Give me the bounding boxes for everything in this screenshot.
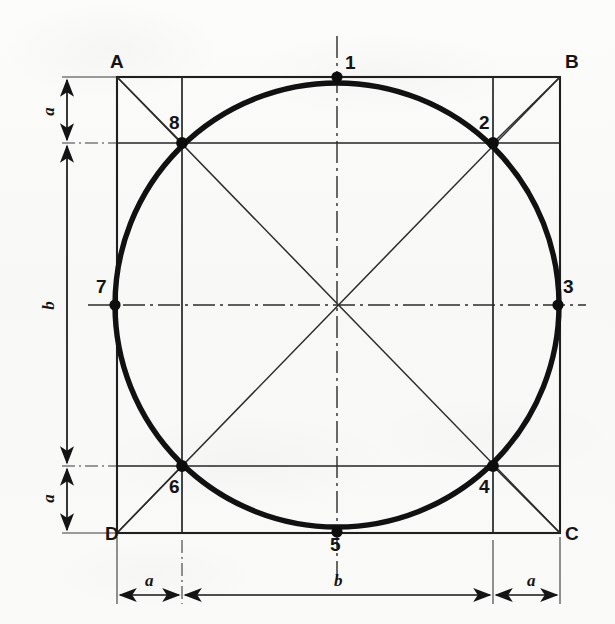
point-label-3: 3 (563, 277, 574, 296)
point-marker-2 (487, 137, 499, 149)
point-label-8: 8 (169, 113, 180, 132)
point-label-2: 2 (479, 113, 490, 132)
point-label-5: 5 (330, 535, 341, 554)
point-label-4: 4 (479, 477, 490, 496)
corner-label-A: A (110, 52, 124, 71)
point-label-7: 7 (96, 277, 107, 296)
point-marker-1 (331, 71, 342, 82)
dim-label-bottom-b: b (334, 572, 343, 589)
corner-label-B: B (565, 52, 579, 71)
extension-lines-dashdot (62, 143, 182, 604)
point-marker-8 (176, 137, 188, 149)
dim-label-bottom-a-right: a (527, 572, 536, 589)
point-label-6: 6 (169, 477, 180, 496)
dim-label-left-a-bottom: a (40, 494, 57, 503)
point-marker-4 (487, 460, 499, 472)
point-marker-6 (176, 460, 188, 472)
point-label-1: 1 (345, 53, 356, 72)
corner-label-D: D (105, 524, 119, 543)
corner-label-C: C (565, 524, 579, 543)
point-marker-3 (552, 299, 563, 310)
figure-canvas: A B C D 1 2 3 4 5 6 7 8 a b a a b a (0, 0, 615, 624)
dim-label-left-a-top: a (40, 107, 57, 116)
dim-label-left-b: b (40, 301, 57, 310)
centre-axes (88, 36, 586, 580)
octagon-construction-diagram (0, 0, 615, 624)
point-marker-7 (109, 299, 120, 310)
dim-label-bottom-a-left: a (145, 572, 154, 589)
